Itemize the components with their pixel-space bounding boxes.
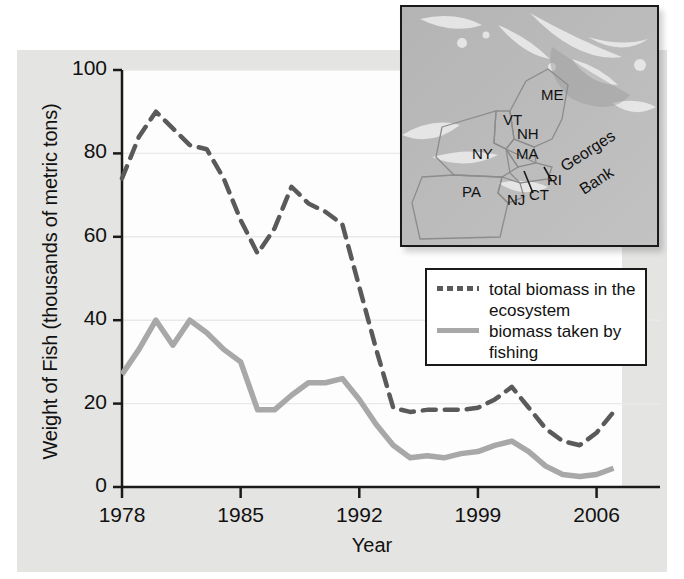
x-tick-label: 1992 (319, 503, 399, 527)
x-tick-label: 2006 (557, 503, 637, 527)
map-label: RI (547, 171, 562, 188)
map-graphic: MEVTNHNYMARICTNJPAGeorgesBank (402, 7, 657, 245)
map-label: NY (472, 145, 493, 162)
map-label: PA (462, 183, 481, 200)
map-label: MA (516, 145, 539, 162)
legend-entry-biomass-fishing: biomass taken by fishing (437, 321, 644, 363)
x-tick-label: 1999 (438, 503, 518, 527)
solid-line-swatch (437, 328, 479, 333)
x-tick-label: 1985 (201, 503, 281, 527)
map-label: CT (529, 186, 549, 203)
legend-entry-total-biomass: total biomass in the ecosystem (437, 279, 644, 321)
inset-map: MEVTNHNYMARICTNJPAGeorgesBank (400, 5, 659, 247)
map-label: NH (517, 125, 539, 142)
x-tick-marks (122, 487, 597, 498)
y-axis-title: Weight of Fish (thousands of metric tons… (39, 62, 62, 502)
map-label: ME (541, 86, 564, 103)
chart-legend: total biomass in the ecosystem biomass t… (425, 268, 647, 366)
x-tick-label: 1978 (82, 503, 162, 527)
figure-container: 020406080100 19781985199219992006 Weight… (0, 0, 684, 579)
y-tick-marks (113, 70, 122, 487)
x-axis-title: Year (122, 534, 622, 557)
dashed-line-swatch (437, 286, 479, 291)
map-label: NJ (507, 191, 525, 208)
legend-label-biomass-fishing: biomass taken by fishing (489, 321, 644, 363)
legend-label-total-biomass: total biomass in the ecosystem (489, 279, 644, 321)
